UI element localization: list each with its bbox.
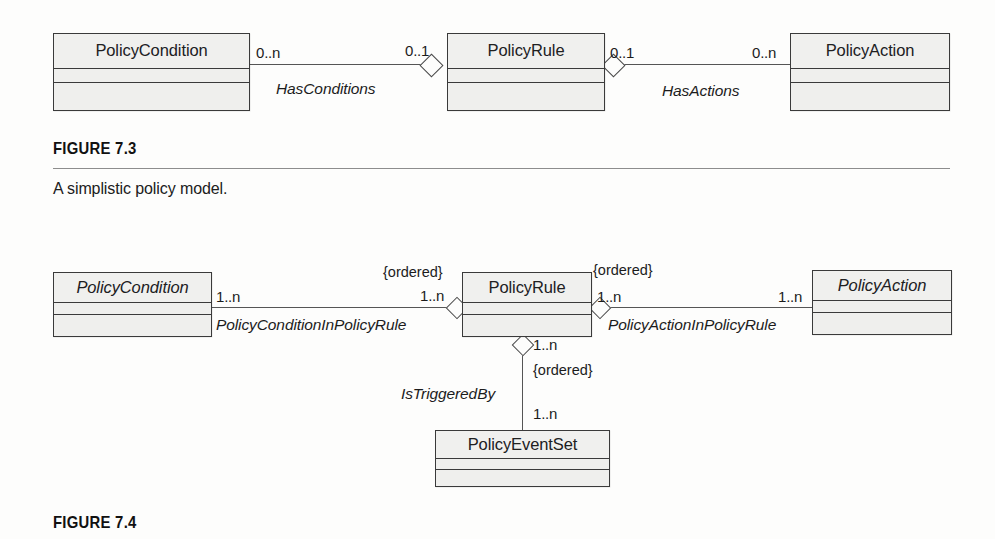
constraint-ordered-bottom-f74: {ordered} xyxy=(533,362,593,378)
class-operations-compartment-f73-condition xyxy=(54,83,249,110)
multiplicity-rule-left-f73: 0..1 xyxy=(405,42,429,59)
class-name-policy-condition-f73: PolicyCondition xyxy=(54,34,249,69)
class-box-policy-rule-f73[interactable]: PolicyRule xyxy=(447,33,605,111)
association-line-has-conditions xyxy=(250,64,422,65)
class-name-text-policy-action-f74: PolicyAction xyxy=(838,276,927,295)
class-operations-compartment-f74-eventset xyxy=(436,470,609,486)
association-line-policy-condition-in-policy-rule xyxy=(212,307,450,308)
class-name-policy-event-set-f74: PolicyEventSet xyxy=(436,431,609,459)
multiplicity-condition-f74: 1..n xyxy=(216,288,240,305)
class-attributes-compartment-f74-eventset xyxy=(436,459,609,470)
class-operations-compartment-f74-action xyxy=(813,313,951,334)
class-name-policy-rule-f73: PolicyRule xyxy=(448,34,604,69)
multiplicity-rule-right-f74: 1..n xyxy=(597,288,621,305)
association-line-policy-action-in-policy-rule xyxy=(605,307,812,308)
constraint-ordered-left-f74: {ordered} xyxy=(383,264,443,280)
class-operations-compartment-f74-condition xyxy=(54,315,211,336)
class-attributes-compartment-f73-action xyxy=(791,69,949,83)
class-name-policy-action-f73: PolicyAction xyxy=(791,34,949,69)
multiplicity-action-f73: 0..n xyxy=(752,44,776,61)
association-name-has-conditions: HasConditions xyxy=(276,80,376,98)
class-box-policy-condition-f73[interactable]: PolicyCondition xyxy=(53,33,250,111)
class-attributes-compartment-f73-rule xyxy=(448,69,604,83)
class-name-policy-condition-f74: PolicyCondition xyxy=(54,273,211,303)
class-name-policy-rule-f74: PolicyRule xyxy=(463,273,591,303)
multiplicity-event-set-f74: 1..n xyxy=(533,405,557,422)
association-name-policy-action-in-policy-rule: PolicyActionInPolicyRule xyxy=(608,316,776,334)
association-name-has-actions: HasActions xyxy=(662,82,739,100)
class-box-policy-action-f73[interactable]: PolicyAction xyxy=(790,33,950,111)
class-name-text-policy-condition-f74: PolicyCondition xyxy=(76,278,188,297)
aggregation-diamond-is-triggered-by xyxy=(512,334,535,357)
association-line-has-actions xyxy=(620,64,790,65)
class-box-policy-action-f74[interactable]: PolicyAction xyxy=(812,270,952,335)
multiplicity-rule-right-f73: 0..1 xyxy=(610,44,634,61)
class-box-policy-rule-f74[interactable]: PolicyRule xyxy=(462,272,592,337)
class-attributes-compartment-f73-condition xyxy=(54,69,249,83)
multiplicity-rule-bottom-f74: 1..n xyxy=(533,336,557,353)
association-name-is-triggered-by: IsTriggeredBy xyxy=(401,385,495,403)
figure-label-7-3: FIGURE 7.3 xyxy=(53,139,137,158)
multiplicity-action-f74: 1..n xyxy=(778,288,802,305)
class-attributes-compartment-f74-rule xyxy=(463,303,591,315)
class-operations-compartment-f74-rule xyxy=(463,315,591,336)
class-box-policy-condition-f74[interactable]: PolicyCondition xyxy=(53,272,212,337)
class-box-policy-event-set-f74[interactable]: PolicyEventSet xyxy=(435,430,610,487)
multiplicity-rule-left-f74: 1..n xyxy=(420,287,444,304)
class-attributes-compartment-f74-action xyxy=(813,301,951,313)
class-attributes-compartment-f74-condition xyxy=(54,303,211,315)
figure-rule-7-3 xyxy=(53,168,950,169)
figure-caption-7-3: A simplistic policy model. xyxy=(53,180,227,198)
class-name-policy-action-f74: PolicyAction xyxy=(813,271,951,301)
scanned-page: PolicyCondition PolicyRule PolicyAction … xyxy=(0,0,995,539)
class-operations-compartment-f73-action xyxy=(791,83,949,110)
constraint-ordered-right-f74: {ordered} xyxy=(593,262,653,278)
figure-label-7-4: FIGURE 7.4 xyxy=(53,513,137,532)
class-operations-compartment-f73-rule xyxy=(448,83,604,110)
multiplicity-condition-f73: 0..n xyxy=(256,44,280,61)
association-name-policy-condition-in-policy-rule: PolicyConditionInPolicyRule xyxy=(216,316,406,334)
